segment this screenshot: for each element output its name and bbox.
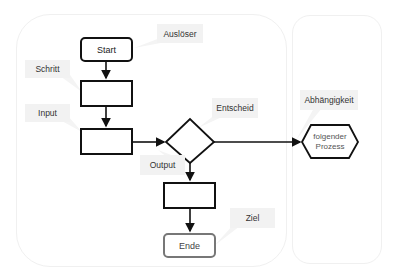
end-node[interactable]: Ende <box>163 233 216 258</box>
callout-dependency: Abhängigkeit <box>300 90 358 110</box>
step2-node[interactable] <box>80 128 133 155</box>
callout-goal: Ziel <box>230 208 275 228</box>
callout-decision: Entscheid <box>212 98 258 118</box>
next-process-label: folgender Prozess <box>302 125 358 159</box>
start-node[interactable]: Start <box>80 37 133 62</box>
callout-output: Output <box>140 155 185 175</box>
callout-trigger: Auslöser <box>157 24 203 43</box>
end-label: Ende <box>179 241 200 251</box>
callout-step: Schritt <box>25 60 70 78</box>
callout-input: Input <box>25 104 70 122</box>
start-label: Start <box>97 45 116 55</box>
step1-node[interactable] <box>80 80 133 107</box>
step3-node[interactable] <box>163 182 216 209</box>
